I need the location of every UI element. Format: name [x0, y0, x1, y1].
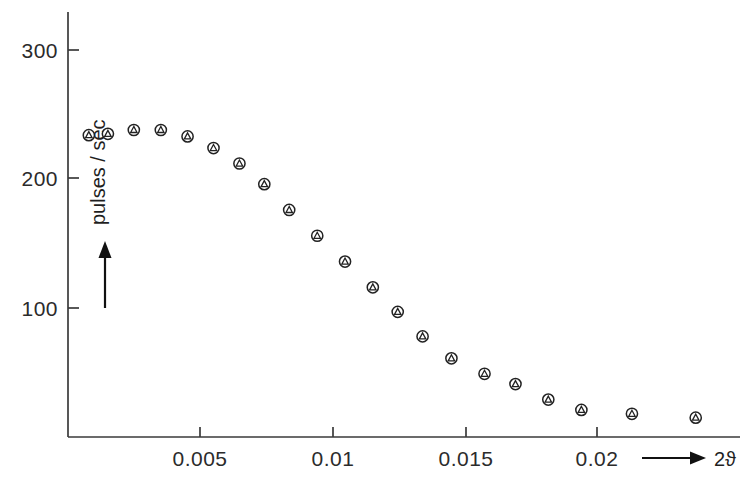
y-tick-label-100: 100	[21, 297, 58, 320]
data-point-marker	[446, 353, 457, 364]
data-point-group	[83, 124, 701, 423]
data-point-marker	[479, 368, 490, 379]
scatter-plot-figure: 300 200 100 0.005 0.01 0.015 0.02 2ϑ pul…	[0, 0, 753, 485]
data-point-marker	[417, 331, 428, 342]
data-point-marker	[208, 142, 219, 153]
data-point-marker	[339, 256, 350, 267]
x-axis-ticks	[200, 427, 597, 437]
data-point-marker	[367, 282, 378, 293]
data-point-marker	[234, 158, 245, 169]
data-point-marker	[259, 179, 270, 190]
data-point-marker	[155, 124, 166, 135]
data-point-marker	[510, 379, 521, 390]
x-tick-label-002: 0.02	[576, 447, 619, 470]
y-axis-ticks	[68, 50, 79, 308]
data-point-marker	[182, 131, 193, 142]
data-point-marker	[392, 306, 403, 317]
data-point-marker	[690, 412, 701, 423]
x-tick-label-001: 0.01	[312, 447, 355, 470]
x-axis-label: 2ϑ	[714, 448, 736, 470]
x-tick-label-0005: 0.005	[172, 447, 227, 470]
x-axis-arrow-icon	[642, 452, 706, 465]
data-point-marker	[576, 404, 587, 415]
data-point-marker	[312, 230, 323, 241]
y-tick-label-300: 300	[21, 39, 58, 62]
data-point-marker	[102, 128, 113, 139]
data-point-marker	[128, 124, 139, 135]
data-point-marker	[543, 394, 554, 405]
data-point-marker	[83, 130, 94, 141]
y-tick-label-200: 200	[21, 167, 58, 190]
data-point-marker	[626, 408, 637, 419]
y-axis-arrow-icon	[99, 241, 112, 308]
plot-canvas: 300 200 100 0.005 0.01 0.015 0.02 2ϑ pul…	[0, 0, 753, 485]
x-tick-label-0015: 0.015	[438, 447, 493, 470]
data-point-marker	[284, 204, 295, 215]
